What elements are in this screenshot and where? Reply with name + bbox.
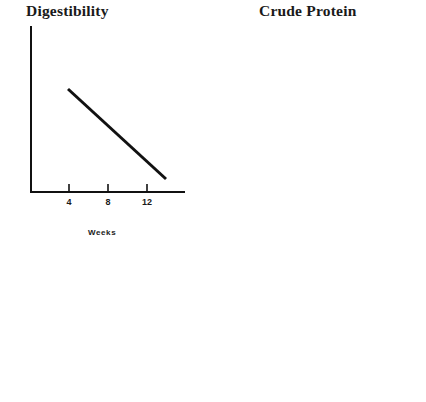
data-line-digestibility (68, 89, 166, 179)
panel-crude-protein: Crude Protein 4 8 12 Weeks (213, 0, 426, 250)
panel-digestibility: Digestibility 4 8 12 Weeks (0, 0, 213, 250)
x-tick-label-4-digestibility: 4 (63, 198, 75, 207)
x-axis-label-digestibility: Weeks (88, 229, 116, 237)
plot-digestibility (0, 0, 213, 250)
panel-total-yield: Total Yield (213, 300, 426, 402)
panel-crude-fiber: Crude Fiber (0, 300, 213, 402)
panel-title-crude-protein: Crude Protein (259, 3, 356, 19)
figure-canvas: Digestibility 4 8 12 Weeks Crude Protein (0, 0, 426, 402)
x-tick-label-8-digestibility: 8 (102, 198, 114, 207)
x-tick-label-12-digestibility: 12 (139, 198, 155, 207)
